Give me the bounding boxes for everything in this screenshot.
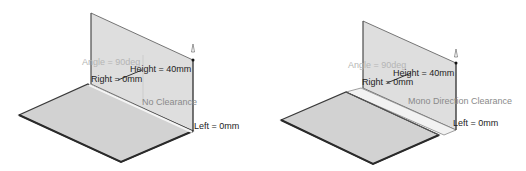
sheet-metal-flange-drawing xyxy=(0,0,263,171)
clearance-mode-label: No Clearance xyxy=(142,97,197,107)
clearance-mode-label: Mono Direction Clearance xyxy=(408,96,512,106)
left-offset-label: Left = 0mm xyxy=(194,121,239,131)
right-offset-label: Right = 0mm xyxy=(91,74,142,84)
flange-mono-direction-clearance-figure: Angle = 90deg Height = 40mm Right = 0mm … xyxy=(263,0,526,171)
flange-no-clearance-figure: Angle = 90deg Height = 40mm Right = 0mm … xyxy=(0,0,263,171)
right-offset-label: Right = 0mm xyxy=(362,77,413,87)
left-offset-label: Left = 0mm xyxy=(453,118,498,128)
height-label: Height = 40mm xyxy=(130,64,191,74)
